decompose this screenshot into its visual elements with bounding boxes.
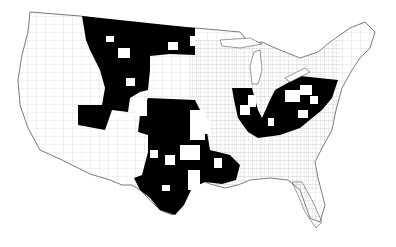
- us-county-map: [0, 0, 396, 247]
